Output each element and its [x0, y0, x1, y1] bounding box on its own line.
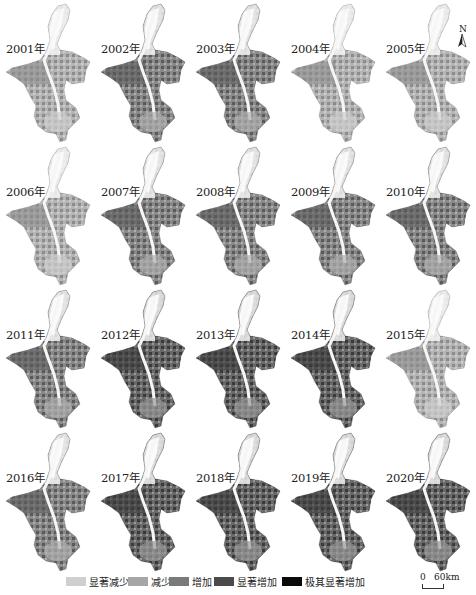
legend-label: 增加 — [192, 574, 212, 589]
map-panel-2009: 2009年 — [285, 143, 380, 286]
region-map — [285, 429, 380, 574]
year-label: 2019年 — [291, 469, 330, 485]
year-label: 2007年 — [101, 183, 140, 199]
map-panel-2012: 2012年 — [95, 286, 190, 429]
map-panel-2018: 2018年 — [190, 429, 285, 572]
map-panel-2008: 2008年 — [190, 143, 285, 286]
legend-swatch — [282, 577, 302, 586]
year-label: 2003年 — [196, 40, 235, 56]
region-map — [95, 286, 190, 431]
year-label: 2002年 — [101, 40, 140, 56]
map-panel-2004: 2004年 — [285, 0, 380, 143]
region-map — [285, 143, 380, 288]
legend-label: 极其显著增加 — [305, 574, 365, 589]
region-map — [380, 286, 475, 431]
map-panel-2001: 2001年 — [0, 0, 95, 143]
legend-item-decrease: 减少 — [128, 575, 171, 587]
north-arrow-icon — [457, 34, 471, 56]
legend-item-significant-increase: 显著增加 — [214, 575, 277, 587]
region-map — [285, 0, 380, 145]
year-label: 2014年 — [291, 326, 330, 342]
map-panel-2003: 2003年 — [190, 0, 285, 143]
map-panel-2002: 2002年 — [95, 0, 190, 143]
year-label: 2020年 — [386, 469, 425, 485]
map-panel-2007: 2007年 — [95, 143, 190, 286]
year-label: 2015年 — [386, 326, 425, 342]
map-panel-2014: 2014年 — [285, 286, 380, 429]
map-panel-2020: 2020年 — [380, 429, 475, 572]
year-label: 2008年 — [196, 183, 235, 199]
year-label: 2004年 — [291, 40, 330, 56]
region-map — [0, 143, 95, 288]
region-map — [190, 143, 285, 288]
map-panel-2005: 2005年 — [380, 0, 475, 143]
year-label: 2012年 — [101, 326, 140, 342]
scale-bar: 0 60km — [420, 572, 470, 590]
region-map — [0, 0, 95, 145]
region-map — [0, 429, 95, 574]
map-panel-2013: 2013年 — [190, 286, 285, 429]
region-map — [190, 286, 285, 431]
scale-start: 0 — [420, 572, 426, 582]
legend-swatch — [214, 577, 234, 586]
year-label: 2010年 — [386, 183, 425, 199]
region-map — [190, 429, 285, 574]
legend-label: 显著减少 — [89, 574, 129, 589]
region-map — [0, 286, 95, 431]
year-label: 2013年 — [196, 326, 235, 342]
legend-item-increase: 增加 — [169, 575, 212, 587]
map-panel-2006: 2006年 — [0, 143, 95, 286]
region-map — [285, 286, 380, 431]
year-label: 2005年 — [386, 40, 425, 56]
year-label: 2001年 — [6, 40, 45, 56]
legend-label: 显著增加 — [237, 574, 277, 589]
map-panel-2015: 2015年 — [380, 286, 475, 429]
year-label: 2011年 — [6, 326, 45, 342]
legend-item-extremely-significant-increase: 极其显著增加 — [282, 575, 365, 587]
north-label: N — [459, 24, 467, 34]
legend-swatch — [169, 577, 189, 586]
region-map — [380, 0, 475, 145]
legend-label: 减少 — [151, 574, 171, 589]
north-arrow: N — [457, 26, 471, 48]
region-map — [95, 0, 190, 145]
year-label: 2009年 — [291, 183, 330, 199]
scale-bar-line — [422, 584, 444, 589]
region-map — [190, 0, 285, 145]
map-panel-2019: 2019年 — [285, 429, 380, 572]
map-panel-2011: 2011年 — [0, 286, 95, 429]
year-label: 2006年 — [6, 183, 45, 199]
region-map — [95, 429, 190, 574]
scale-end: 60km — [434, 572, 459, 582]
map-grid: 2001年2002年2003年2004年2005年2006年2007年2008年… — [0, 0, 476, 568]
year-label: 2016年 — [6, 469, 45, 485]
region-map — [380, 143, 475, 288]
map-panel-2016: 2016年 — [0, 429, 95, 572]
region-map — [95, 143, 190, 288]
legend: 显著减少 减少 增加 显著增加 极其显著增加 — [0, 570, 476, 592]
year-label: 2017年 — [101, 469, 140, 485]
map-panel-2010: 2010年 — [380, 143, 475, 286]
year-label: 2018年 — [196, 469, 235, 485]
region-map — [380, 429, 475, 574]
legend-swatch — [128, 577, 148, 586]
map-panel-2017: 2017年 — [95, 429, 190, 572]
legend-item-significant-decrease: 显著减少 — [66, 575, 129, 587]
legend-swatch — [66, 577, 86, 586]
